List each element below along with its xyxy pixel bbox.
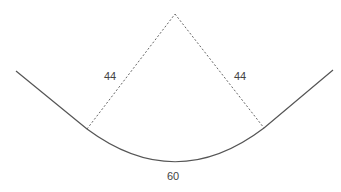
curve-path [16,70,333,162]
left-radius-dashed-line [87,14,175,129]
left-radius-label: 44 [104,70,116,82]
right-radius-dashed-line [175,14,264,128]
arc-length-label: 60 [167,170,179,182]
right-radius-label: 44 [234,70,246,82]
curve-diagram: 44 44 60 [0,0,341,192]
